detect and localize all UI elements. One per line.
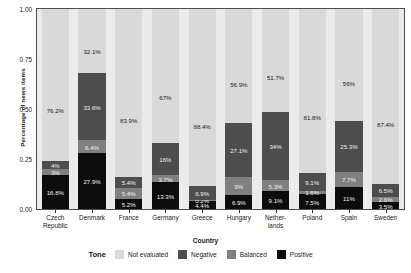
bar-segment[interactable] — [372, 202, 399, 209]
bar-segment[interactable] — [115, 199, 142, 209]
bar-column[interactable]: 5.2%5.4%5.4%83.9% — [115, 9, 142, 209]
x-axis-tick-label-line: lands — [253, 222, 299, 230]
bar-segment[interactable] — [115, 177, 142, 188]
x-axis-tick-label: Sweden — [363, 214, 409, 222]
bar-segment[interactable] — [299, 173, 326, 191]
x-axis-tick-mark — [239, 210, 240, 213]
legend-item[interactable]: Negative — [178, 250, 217, 259]
bar-segment[interactable] — [225, 195, 252, 209]
bar-segment[interactable] — [262, 191, 289, 209]
bar-segment[interactable] — [78, 153, 105, 209]
x-axis-tick-mark — [349, 210, 350, 213]
bar-segment[interactable] — [42, 9, 69, 161]
x-axis-tick-mark — [276, 210, 277, 213]
bar-column[interactable]: 9.1%5.3%34%51.7% — [262, 9, 289, 209]
bar-segment[interactable] — [299, 191, 326, 194]
bar-segment[interactable] — [78, 9, 105, 73]
plot-area: 16.8%3%4%76.2%27.9%6.4%33.6%32.1%5.2%5.4… — [37, 9, 404, 209]
bar-segment[interactable] — [152, 175, 179, 182]
bar-segment[interactable] — [152, 182, 179, 209]
legend: Tone Not evaluatedNegativeBalancedPositi… — [0, 250, 411, 259]
bar-segment[interactable] — [335, 9, 362, 121]
y-axis-tick-label: 0.00 — [6, 206, 32, 213]
legend-items: Not evaluatedNegativeBalancedPositive — [115, 250, 323, 259]
legend-label: Positive — [290, 251, 313, 258]
x-axis-title: Country — [0, 237, 411, 244]
x-axis-tick-mark — [55, 210, 56, 213]
y-axis-tick-label: 0.75 — [6, 56, 32, 63]
bar-segment[interactable] — [78, 73, 105, 140]
bar-segment[interactable] — [225, 123, 252, 177]
legend-swatch — [277, 250, 286, 259]
legend-swatch — [178, 250, 187, 259]
bar-segment[interactable] — [335, 187, 362, 209]
bar-segment[interactable] — [42, 175, 69, 209]
bar-column[interactable]: 7.5%1.6%9.1%81.8% — [299, 9, 326, 209]
legend-swatch — [115, 250, 124, 259]
legend-item[interactable]: Balanced — [227, 250, 267, 259]
bar-segment[interactable] — [299, 9, 326, 173]
stacked-bar-chart: Percentage of news items 0.000.250.500.7… — [0, 0, 411, 273]
bar-column[interactable]: 4.4%0.2%6.9%88.4% — [189, 9, 216, 209]
bar-segment[interactable] — [42, 169, 69, 175]
legend-title: Tone — [88, 250, 106, 259]
bar-column[interactable]: 6.9%9%27.1%56.9% — [225, 9, 252, 209]
bar-column[interactable]: 27.9%6.4%33.6%32.1% — [78, 9, 105, 209]
bar-segment[interactable] — [262, 9, 289, 112]
bar-segment[interactable] — [225, 177, 252, 195]
y-axis-tick-labels: 0.000.250.500.751.00 — [6, 8, 32, 210]
legend-label: Balanced — [240, 251, 267, 258]
bar-segment[interactable] — [225, 9, 252, 123]
bar-segment[interactable] — [189, 186, 216, 200]
bar-segment[interactable] — [262, 112, 289, 180]
bar-column[interactable]: 13.3%3.7%16%67% — [152, 9, 179, 209]
x-axis-tick-label-line: Republic — [32, 222, 78, 230]
x-axis-tick-mark — [386, 210, 387, 213]
bar-column[interactable]: 3.5%2.6%6.5%87.4% — [372, 9, 399, 209]
bar-segment[interactable] — [78, 140, 105, 153]
bar-segment[interactable] — [372, 184, 399, 197]
bar-segment[interactable] — [115, 188, 142, 199]
bar-segment[interactable] — [115, 9, 142, 177]
legend-swatch — [227, 250, 236, 259]
x-axis-tick-mark — [202, 210, 203, 213]
legend-label: Negative — [191, 251, 217, 258]
bar-column[interactable]: 11%7.7%25.3%56% — [335, 9, 362, 209]
x-axis-tick-mark — [92, 210, 93, 213]
bar-segment[interactable] — [189, 9, 216, 186]
bar-segment[interactable] — [372, 9, 399, 184]
bar-segment[interactable] — [372, 197, 399, 202]
bar-segment[interactable] — [335, 172, 362, 187]
y-axis-tick-label: 1.00 — [6, 6, 32, 13]
bar-segment[interactable] — [262, 180, 289, 191]
bar-column[interactable]: 16.8%3%4%76.2% — [42, 9, 69, 209]
x-axis-tick-mark — [312, 210, 313, 213]
plot-panel: 16.8%3%4%76.2%27.9%6.4%33.6%32.1%5.2%5.4… — [36, 8, 405, 210]
bar-segment[interactable] — [42, 161, 69, 169]
bar-segment[interactable] — [299, 194, 326, 209]
y-axis-tick-label: 0.25 — [6, 156, 32, 163]
legend-item[interactable]: Not evaluated — [115, 250, 168, 259]
x-axis-tick-label-line: Sweden — [363, 214, 409, 222]
x-axis-tick-mark — [165, 210, 166, 213]
y-axis-tick-label: 0.50 — [6, 106, 32, 113]
bar-segment[interactable] — [189, 200, 216, 209]
legend-item[interactable]: Positive — [277, 250, 313, 259]
legend-label: Not evaluated — [128, 251, 168, 258]
x-axis-tick-mark — [129, 210, 130, 213]
bar-segment[interactable] — [335, 121, 362, 172]
bar-segment[interactable] — [152, 143, 179, 175]
bar-segment[interactable] — [152, 9, 179, 143]
